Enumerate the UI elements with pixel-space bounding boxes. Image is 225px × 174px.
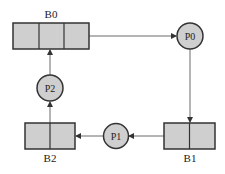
buffer-b0-label: B0 — [45, 8, 58, 20]
process-p0-label: P0 — [185, 31, 196, 42]
process-p1: P1 — [104, 124, 129, 149]
buffer-process-cycle-diagram: B0 B1 B2 P0 P1 P2 — [0, 0, 225, 174]
buffer-b0: B0 — [13, 8, 89, 49]
buffer-b2-label: B2 — [44, 152, 57, 164]
process-p1-label: P1 — [111, 131, 122, 142]
buffer-b1-label: B1 — [184, 152, 197, 164]
buffer-b1: B1 — [164, 123, 215, 164]
buffer-b2: B2 — [25, 123, 75, 164]
process-p0: P0 — [177, 23, 203, 49]
process-p2: P2 — [37, 75, 63, 101]
process-p2-label: P2 — [45, 83, 56, 94]
